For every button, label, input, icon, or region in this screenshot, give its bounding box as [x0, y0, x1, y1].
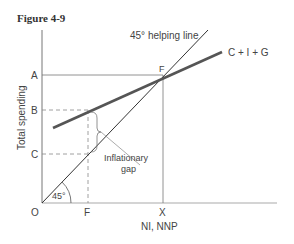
origin-label: O [31, 207, 39, 218]
gap-brace [91, 112, 101, 152]
x-axis-label: NI, NNP [141, 221, 178, 232]
gap-label-2: gap [121, 164, 136, 174]
y-tick-b: B [31, 105, 38, 116]
y-tick-a: A [31, 70, 38, 81]
chart: 45° helping line C + I + G F Inflationar… [0, 0, 294, 244]
gap-label-1: Inflationary [104, 153, 149, 163]
cig-label: C + I + G [228, 47, 269, 58]
y-tick-c: C [31, 149, 38, 160]
point-f-label: F [159, 64, 165, 74]
helping-line [42, 30, 208, 203]
helping-line-label: 45° helping line [130, 30, 199, 41]
x-tick-f: F [84, 207, 90, 218]
y-axis-label: Total spending [16, 86, 27, 151]
cig-line [53, 52, 222, 128]
x-tick-x: X [159, 207, 166, 218]
angle-label: 45° [52, 191, 66, 201]
